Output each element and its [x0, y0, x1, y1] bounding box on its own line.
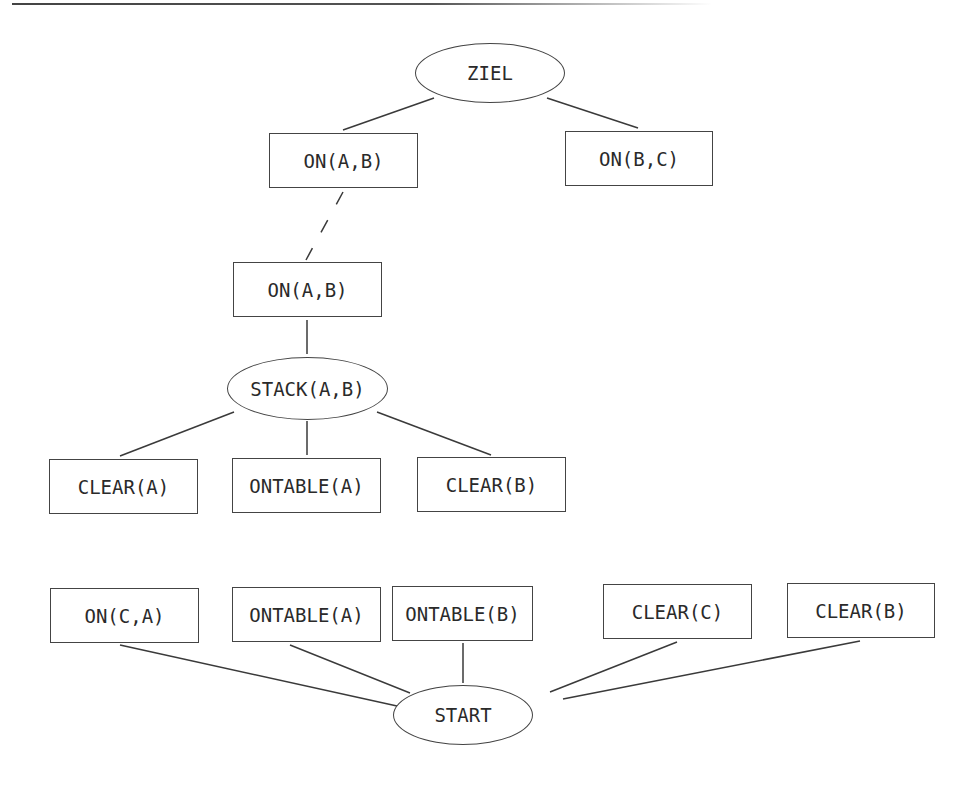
edge-ziel-on_ab_1: [343, 98, 434, 130]
node-clear-b-2: CLEAR(B): [787, 583, 935, 638]
node-ontable-a-2: ONTABLE(A): [232, 587, 381, 642]
node-label: CLEAR(C): [632, 601, 724, 623]
diagram-canvas: ZIELON(A,B)ON(B,C)ON(A,B)STACK(A,B)CLEAR…: [0, 0, 980, 788]
node-ontable-b: ONTABLE(B): [392, 586, 533, 641]
node-label: ONTABLE(B): [405, 603, 519, 625]
node-label: ON(C,A): [84, 605, 164, 627]
node-clear-c: CLEAR(C): [603, 584, 752, 639]
edge-ziel-on_bc: [547, 98, 638, 128]
node-label: START: [434, 704, 491, 726]
node-on-ab-1: ON(A,B): [269, 133, 418, 188]
node-start: START: [393, 685, 533, 745]
node-clear-b-1: CLEAR(B): [417, 457, 566, 512]
node-label: ON(A,B): [303, 150, 383, 172]
node-ontable-a-1: ONTABLE(A): [232, 458, 381, 513]
edge-layer: [0, 0, 980, 788]
node-label: CLEAR(B): [446, 474, 538, 496]
node-label: ONTABLE(A): [249, 604, 363, 626]
node-label: CLEAR(A): [78, 476, 170, 498]
edge-stack_ab-clear_a: [120, 412, 234, 456]
node-on-bc: ON(B,C): [565, 131, 713, 186]
edge-clear_c-start: [550, 642, 677, 692]
node-label: ZIEL: [467, 62, 513, 84]
node-label: ON(B,C): [599, 148, 679, 170]
edge-stack_ab-clear_b_1: [377, 412, 491, 455]
node-label: ON(A,B): [267, 279, 347, 301]
node-label: CLEAR(B): [815, 600, 907, 622]
node-label: STACK(A,B): [250, 378, 364, 400]
node-ziel: ZIEL: [415, 43, 565, 103]
node-clear-a: CLEAR(A): [49, 459, 198, 514]
node-stack-ab: STACK(A,B): [227, 357, 388, 420]
node-on-ca: ON(C,A): [50, 588, 199, 643]
edge-on_ab_1-on_ab_2: [306, 192, 343, 260]
edge-on_ca-start: [120, 645, 397, 706]
node-label: ONTABLE(A): [249, 475, 363, 497]
node-on-ab-2: ON(A,B): [233, 262, 382, 317]
